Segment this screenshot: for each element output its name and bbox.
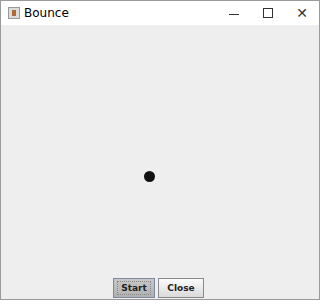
minimize-button[interactable] bbox=[217, 1, 251, 25]
button-panel: Start Close bbox=[1, 275, 319, 299]
start-button[interactable]: Start bbox=[113, 278, 155, 298]
java-cup-icon bbox=[8, 7, 20, 19]
close-icon: ✕ bbox=[296, 6, 308, 20]
maximize-button[interactable] bbox=[251, 1, 285, 25]
minimize-icon bbox=[229, 14, 239, 15]
close-button-label: Close bbox=[167, 283, 194, 293]
maximize-icon bbox=[263, 8, 273, 18]
close-button[interactable]: Close bbox=[158, 278, 204, 298]
window-title: Bounce bbox=[24, 5, 69, 21]
close-window-button[interactable]: ✕ bbox=[285, 1, 319, 25]
title-bar[interactable]: Bounce ✕ bbox=[1, 1, 319, 25]
bounce-window: Bounce ✕ Start Close bbox=[0, 0, 320, 300]
start-button-label: Start bbox=[118, 282, 150, 294]
bounce-canvas bbox=[1, 25, 319, 275]
ball bbox=[144, 171, 155, 182]
